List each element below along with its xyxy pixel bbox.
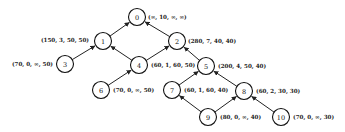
node-id-label: 4 — [137, 62, 141, 70]
node-id-label: 0 — [135, 14, 139, 22]
edge-1-to-0 — [110, 22, 130, 36]
node-6: 6 — [93, 82, 110, 99]
node-id-label: 7 — [170, 87, 174, 95]
edge-3-to-1 — [72, 46, 95, 60]
tree-diagram: 012345678910 (∞, 10, ∞, ∞)(150, 3, 50, 5… — [0, 0, 345, 132]
node-id-label: 2 — [175, 38, 179, 46]
node-10-tuple-label: (70, 0, ∞, 30) — [293, 114, 334, 120]
node-id-label: 5 — [204, 63, 208, 71]
node-0-tuple-label: (∞, 10, ∞, ∞) — [148, 14, 187, 20]
node-2: 2 — [169, 33, 186, 50]
node-id-label: 10 — [277, 114, 285, 122]
node-8-tuple-label: (60, 2, 30, 30) — [256, 88, 301, 94]
edge-9-to-8 — [215, 96, 237, 112]
edge-7-to-5 — [179, 71, 199, 85]
node-id-label: 1 — [101, 38, 105, 46]
node-2-tuple-label: (280, 7, 40, 40) — [188, 38, 236, 44]
node-4: 4 — [131, 57, 148, 74]
node-6-tuple-label: (70, 0, ∞, 50) — [113, 87, 154, 93]
node-0: 0 — [129, 9, 146, 26]
edge-9-to-7 — [179, 95, 201, 112]
edge-4-to-1 — [110, 46, 131, 60]
node-7: 7 — [164, 82, 181, 99]
node-5-tuple-label: (200, 4, 50, 40) — [218, 63, 266, 69]
node-id-label: 8 — [242, 88, 246, 96]
node-9-tuple-label: (80, 0, ∞, 40) — [220, 114, 261, 120]
node-3-tuple-label: (70, 0, ∞, 50) — [12, 61, 53, 67]
edge-2-to-0 — [145, 22, 170, 37]
node-1: 1 — [95, 33, 112, 50]
node-3: 3 — [57, 56, 74, 73]
node-5: 5 — [198, 58, 215, 75]
node-id-label: 3 — [63, 61, 67, 69]
node-8: 8 — [236, 83, 253, 100]
node-id-label: 9 — [206, 114, 210, 122]
node-7-tuple-label: (60, 1, 60, 40) — [184, 87, 229, 93]
node-10: 10 — [273, 109, 290, 126]
node-9: 9 — [200, 109, 217, 126]
edge-5-to-2 — [184, 47, 200, 61]
edge-8-to-5 — [214, 71, 237, 86]
edge-4-to-2 — [146, 46, 169, 61]
edge-10-to-8 — [251, 96, 274, 112]
node-id-label: 6 — [99, 87, 103, 95]
edge-6-to-4 — [108, 70, 131, 85]
node-4-tuple-label: (60, 1, 60, 50) — [151, 62, 196, 68]
node-1-tuple-label: (150, 3, 50, 50) — [41, 37, 89, 43]
